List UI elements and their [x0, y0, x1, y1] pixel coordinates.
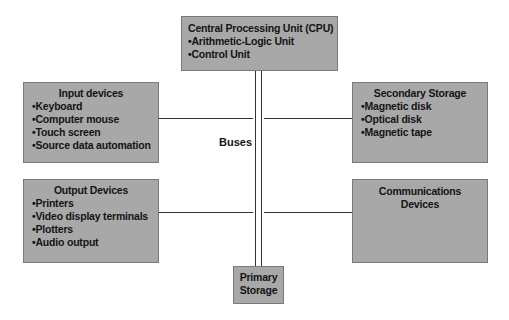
- secondary-storage-box: Secondary Storage Magnetic disk Optical …: [352, 82, 488, 163]
- secondary-connector: [264, 118, 352, 119]
- output-item: Printers: [32, 197, 158, 210]
- secondary-item: Optical disk: [361, 113, 487, 126]
- input-item: Source data automation: [32, 139, 158, 152]
- input-devices-box: Input devices Keyboard Computer mouse To…: [23, 82, 159, 163]
- secondary-storage-title: Secondary Storage: [361, 87, 487, 100]
- output-devices-box: Output Devices Printers Video display te…: [23, 179, 159, 263]
- output-item: Plotters: [32, 223, 158, 236]
- communications-connector: [264, 212, 352, 213]
- output-item: Audio output: [32, 236, 158, 249]
- cpu-title: Central Processing Unit (CPU): [188, 22, 337, 35]
- cpu-box: Central Processing Unit (CPU) Arithmetic…: [181, 16, 338, 71]
- secondary-item: Magnetic disk: [361, 100, 487, 113]
- secondary-item: Magnetic tape: [361, 126, 487, 139]
- output-item: Video display terminals: [32, 210, 158, 223]
- input-devices-title: Input devices: [32, 87, 158, 100]
- input-item: Computer mouse: [32, 113, 158, 126]
- bus-line-left: [255, 70, 256, 266]
- communications-title-line2: Devices: [353, 198, 487, 211]
- cpu-item: Control Unit: [188, 48, 337, 61]
- primary-storage-title-line1: Primary: [234, 271, 283, 284]
- bus-line-right: [261, 70, 262, 266]
- input-item: Touch screen: [32, 126, 158, 139]
- primary-storage-title-line2: Storage: [234, 284, 283, 297]
- communications-devices-box: Communications Devices: [352, 179, 488, 263]
- cpu-item: Arithmetic-Logic Unit: [188, 35, 337, 48]
- output-connector: [158, 212, 253, 213]
- primary-storage-box: Primary Storage: [233, 266, 284, 304]
- output-devices-title: Output Devices: [32, 184, 158, 197]
- input-connector: [158, 118, 253, 119]
- communications-title-line1: Communications: [353, 185, 487, 198]
- buses-label: Buses: [219, 136, 252, 148]
- input-item: Keyboard: [32, 100, 158, 113]
